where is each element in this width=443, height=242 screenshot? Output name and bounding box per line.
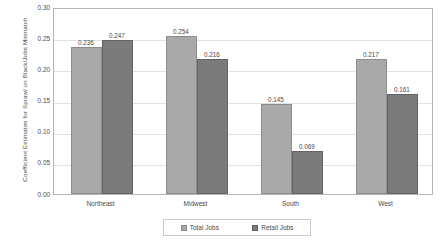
legend-swatch-icon xyxy=(252,225,258,231)
y-tick-label: 0.10 xyxy=(24,129,50,135)
legend-label: Retail Jobs xyxy=(261,224,293,231)
x-category-label-west: West xyxy=(346,200,426,207)
bar-midwest-retail-jobs xyxy=(197,59,228,194)
chart-legend: Total JobsRetail Jobs xyxy=(163,219,311,236)
x-category-label-midwest: Midwest xyxy=(156,200,236,207)
legend-entry-total-jobs: Total Jobs xyxy=(181,224,219,231)
bar-value-label: 0.216 xyxy=(194,52,231,58)
bar-south-retail-jobs xyxy=(292,151,323,194)
bar-south-total-jobs xyxy=(261,104,292,194)
bar-value-label: 0.161 xyxy=(384,87,421,93)
bar-value-label: 0.069 xyxy=(289,144,326,150)
bar-value-label: 0.217 xyxy=(353,52,390,58)
y-axis-tick-labels: 0.000.050.100.150.200.250.30 xyxy=(22,0,50,242)
y-tick-label: 0.30 xyxy=(24,5,50,11)
x-category-label-south: South xyxy=(251,200,331,207)
x-category-label-northeast: Northeast xyxy=(61,200,141,207)
legend-entry-retail-jobs: Retail Jobs xyxy=(252,224,293,231)
bar-value-label: 0.247 xyxy=(99,33,136,39)
y-tick-label: 0.20 xyxy=(24,67,50,73)
y-tick-label: 0.00 xyxy=(24,192,50,198)
plot-area: 0.2360.2470.2540.2160.1450.0690.2170.161 xyxy=(53,8,433,195)
legend-label: Total Jobs xyxy=(190,224,219,231)
y-tick-label: 0.25 xyxy=(24,36,50,42)
bar-chart-figure: Coefficient Estimates for Sprawl on Blac… xyxy=(0,0,443,242)
y-tick-label: 0.15 xyxy=(24,98,50,104)
bar-west-retail-jobs xyxy=(387,94,418,194)
bar-value-label: 0.236 xyxy=(68,40,105,46)
bar-value-label: 0.145 xyxy=(258,97,295,103)
bar-midwest-total-jobs xyxy=(166,36,197,194)
bar-west-total-jobs xyxy=(356,59,387,194)
bar-value-label: 0.254 xyxy=(163,29,200,35)
bar-northeast-retail-jobs xyxy=(102,40,133,194)
legend-swatch-icon xyxy=(181,225,187,231)
y-tick-label: 0.05 xyxy=(24,160,50,166)
bar-northeast-total-jobs xyxy=(71,47,102,194)
